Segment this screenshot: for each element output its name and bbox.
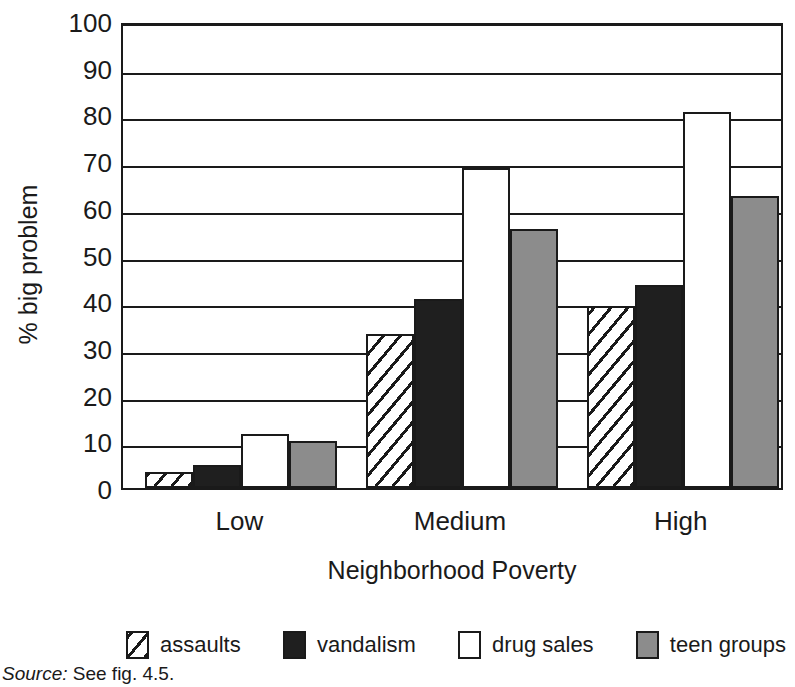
bar-group-low bbox=[145, 26, 337, 488]
bar-medium-teen-groups[interactable] bbox=[510, 229, 558, 488]
y-axis-tick-20: 20 bbox=[30, 384, 112, 410]
bar-medium-assaults[interactable] bbox=[366, 334, 414, 488]
y-axis-tick-30: 30 bbox=[30, 337, 112, 363]
bar-high-vandalism[interactable] bbox=[635, 285, 683, 488]
legend-label: teen groups bbox=[670, 632, 786, 658]
bar-low-teen-groups[interactable] bbox=[289, 441, 337, 488]
y-axis-tick-10: 10 bbox=[30, 430, 112, 456]
bar-low-assaults[interactable] bbox=[145, 472, 193, 488]
y-axis-tick-100: 100 bbox=[30, 10, 112, 36]
bar-medium-vandalism[interactable] bbox=[414, 299, 462, 488]
x-axis-title: Neighborhood Poverty bbox=[121, 556, 783, 585]
y-axis-tick-70: 70 bbox=[30, 150, 112, 176]
source-prefix: Source: bbox=[2, 663, 67, 684]
legend-swatch-teen-groups-icon bbox=[636, 631, 659, 659]
legend-swatch-vandalism-icon bbox=[283, 631, 306, 659]
y-axis-tick-90: 90 bbox=[30, 57, 112, 83]
y-axis-tick-60: 60 bbox=[30, 197, 112, 223]
legend-label: drug sales bbox=[492, 632, 594, 658]
source-note: Source: See fig. 4.5. bbox=[2, 663, 174, 685]
plot-area bbox=[121, 23, 783, 490]
bar-high-assaults[interactable] bbox=[587, 306, 635, 488]
x-axis-label-high: High bbox=[591, 505, 771, 537]
y-axis-tick-50: 50 bbox=[30, 244, 112, 270]
bar-low-vandalism[interactable] bbox=[193, 465, 241, 488]
bar-medium-drug-sales[interactable] bbox=[462, 168, 510, 488]
y-axis-tick-40: 40 bbox=[30, 290, 112, 316]
y-axis-tick-labels: 1009080706050403020100 bbox=[30, 23, 112, 490]
chart-legend: assaultsvandalismdrug salesteen groups bbox=[126, 628, 786, 662]
x-axis-category-labels: LowMediumHigh bbox=[121, 505, 783, 541]
bar-low-drug-sales[interactable] bbox=[241, 434, 289, 488]
x-axis-label-low: Low bbox=[149, 505, 329, 537]
legend-label: assaults bbox=[160, 632, 241, 658]
bar-chart-figure: % big problem 1009080706050403020100 Low… bbox=[0, 0, 795, 687]
y-axis-tick-0: 0 bbox=[30, 477, 112, 503]
legend-item-drug-sales[interactable]: drug sales bbox=[458, 631, 594, 659]
x-axis-label-medium: Medium bbox=[370, 505, 550, 537]
bar-group-high bbox=[587, 26, 779, 488]
bar-high-drug-sales[interactable] bbox=[683, 112, 731, 488]
bars-container bbox=[123, 26, 781, 488]
legend-item-teen-groups[interactable]: teen groups bbox=[636, 631, 786, 659]
legend-swatch-drug-sales-icon bbox=[458, 631, 481, 659]
legend-item-assaults[interactable]: assaults bbox=[126, 631, 241, 659]
bar-high-teen-groups[interactable] bbox=[731, 196, 779, 488]
source-text: See fig. 4.5. bbox=[67, 663, 174, 684]
y-axis-tick-80: 80 bbox=[30, 103, 112, 129]
legend-item-vandalism[interactable]: vandalism bbox=[283, 631, 416, 659]
bar-group-medium bbox=[366, 26, 558, 488]
legend-label: vandalism bbox=[317, 632, 416, 658]
legend-swatch-assaults-icon bbox=[126, 631, 149, 659]
